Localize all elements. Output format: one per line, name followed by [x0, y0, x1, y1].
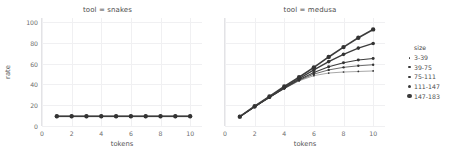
data-point: [356, 36, 360, 40]
y-tick-label: 0: [34, 123, 38, 130]
data-point: [371, 42, 375, 46]
y-tick-label: 100: [26, 19, 38, 26]
series-line: [240, 29, 373, 116]
data-point: [188, 114, 192, 118]
data-point: [129, 114, 133, 118]
series-layer: [225, 18, 385, 126]
data-point: [84, 114, 88, 118]
legend-label: 39-75: [414, 64, 432, 71]
facet-panel-snakes: tool = snakes 0204060801000246810 rate t…: [0, 0, 215, 158]
data-point: [252, 104, 256, 108]
plot-area-medusa: 0246810: [225, 18, 385, 126]
x-tick-label: 8: [342, 130, 346, 137]
data-point: [55, 114, 59, 118]
legend-marker-icon: [405, 76, 414, 79]
data-point: [173, 114, 177, 118]
y-tick-label: 20: [30, 102, 38, 109]
x-tick-label: 10: [186, 130, 194, 137]
x-tick-label: 6: [312, 130, 316, 137]
data-point: [144, 114, 148, 118]
legend-label: 111-147: [414, 83, 440, 90]
data-point: [372, 57, 375, 60]
gridline-horizontal: [42, 126, 202, 127]
data-point: [357, 65, 359, 67]
legend-item[interactable]: 111-147: [405, 82, 450, 92]
y-tick-label: 60: [30, 60, 38, 67]
y-tick-label: 80: [30, 39, 38, 46]
data-point: [99, 114, 103, 118]
legend-label: 3-39: [414, 54, 428, 61]
legend-entries: 3-3939-7575-111111-147147-183: [405, 53, 450, 101]
x-tick-label: 10: [369, 130, 377, 137]
legend-label: 147-183: [414, 93, 440, 100]
legend-item[interactable]: 3-39: [405, 53, 450, 63]
legend-marker-icon: [405, 85, 414, 88]
data-point: [238, 114, 242, 118]
data-point: [342, 61, 345, 64]
y-axis-title: rate: [4, 65, 12, 79]
data-point: [341, 45, 345, 49]
x-tick-label: 6: [129, 130, 133, 137]
y-tick-label: 40: [30, 81, 38, 88]
legend-title: size: [405, 44, 450, 51]
data-point: [267, 94, 271, 98]
legend-marker-icon: [405, 66, 414, 68]
x-tick-label: 2: [253, 130, 257, 137]
data-point: [342, 53, 346, 57]
legend-item[interactable]: 75-111: [405, 72, 450, 82]
data-point: [327, 65, 330, 68]
series-layer: [42, 18, 202, 126]
data-point: [342, 66, 344, 68]
figure: tool = snakes 0204060801000246810 rate t…: [0, 0, 450, 158]
legend: size 3-3939-7575-111111-147147-183: [405, 44, 450, 101]
x-tick-label: 0: [223, 130, 227, 137]
series-line: [240, 43, 373, 116]
data-point: [69, 114, 73, 118]
legend-item[interactable]: 147-183: [405, 91, 450, 101]
x-tick-label: 2: [70, 130, 74, 137]
data-point: [312, 65, 316, 69]
legend-item[interactable]: 39-75: [405, 63, 450, 73]
data-point: [357, 71, 359, 73]
legend-marker-icon: [405, 57, 414, 59]
x-tick-label: 0: [40, 130, 44, 137]
data-point: [328, 69, 330, 71]
x-tick-label: 4: [282, 130, 286, 137]
data-point: [372, 70, 374, 72]
x-axis-title-left: tokens: [42, 140, 202, 148]
data-point: [371, 27, 375, 31]
facet-panel-medusa: tool = medusa 0246810: [215, 0, 405, 158]
gridline-horizontal: [225, 126, 385, 127]
data-point: [357, 46, 361, 50]
facet-title-snakes: tool = snakes: [0, 6, 215, 14]
x-tick-label: 8: [159, 130, 163, 137]
data-point: [343, 71, 345, 73]
data-point: [357, 59, 360, 62]
series-line: [240, 59, 373, 117]
series-line: [240, 71, 373, 117]
legend-label: 75-111: [414, 73, 436, 80]
data-point: [297, 75, 301, 79]
data-point: [327, 60, 331, 64]
data-point: [327, 55, 331, 59]
data-point: [372, 64, 374, 66]
plot-area-snakes: 0204060801000246810: [42, 18, 202, 126]
facet-title-medusa: tool = medusa: [215, 6, 405, 14]
data-point: [282, 84, 286, 88]
x-tick-label: 4: [99, 130, 103, 137]
data-point: [158, 114, 162, 118]
data-point: [328, 72, 330, 74]
x-axis-title-right: tokens: [225, 140, 385, 148]
legend-marker-icon: [405, 94, 414, 98]
data-point: [114, 114, 118, 118]
